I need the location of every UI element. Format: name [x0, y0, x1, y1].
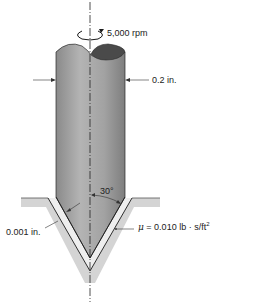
diagram-canvas	[0, 0, 263, 305]
viscosity-label: μ = 0.010 lb · s/ft2	[138, 223, 210, 232]
film-thickness-label: 0.001 in.	[6, 228, 41, 237]
shaft-diameter-label: 0.2 in.	[152, 76, 177, 85]
cone-angle-label: 30°	[100, 187, 114, 196]
rotation-arrow-icon	[78, 29, 105, 40]
viscosity-exponent: 2	[206, 221, 209, 227]
rotation-speed-label: 5,000 rpm	[107, 29, 148, 38]
conical-bearing-diagram: 5,000 rpm 0.2 in. 30° 0.001 in. μ = 0.01…	[0, 0, 263, 305]
viscosity-value: = 0.010 lb · s/ft	[144, 222, 206, 232]
